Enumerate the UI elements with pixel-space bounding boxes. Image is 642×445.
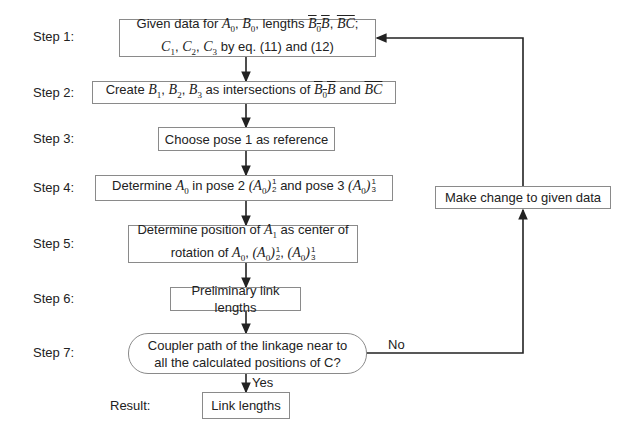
result-label: Result: [110,398,150,413]
step-4-box: Determine A0 in pose 2 (A0)12 and pose 3… [95,175,393,201]
step-5-box: Determine position of A1 as center of ro… [128,225,358,263]
result-text: Link lengths [211,397,280,414]
step-3-label: Step 3: [33,131,74,146]
step-1-line-1: Given data for A0, B0, lengths B0B, BC; [137,15,359,38]
step-5-label: Step 5: [33,236,74,251]
step-6-label: Step 6: [33,291,74,306]
step-7-line-2: all the calculated positions of C? [154,354,340,371]
step-7-line-1: Coupler path of the linkage near to [148,337,347,354]
yes-edge-label: Yes [252,375,273,390]
step-2-text: Create B1, B2, B3 as intersections of B0… [106,81,383,104]
step-3-text: Choose pose 1 as reference [165,131,328,148]
step-4-label: Step 4: [33,180,74,195]
step-1-box: Given data for A0, B0, lengths B0B, BC; … [119,19,376,57]
result-box: Link lengths [202,392,290,419]
step-1-label: Step 1: [33,29,74,44]
step-2-box: Create B1, B2, B3 as intersections of B0… [92,81,396,104]
step-1-line-2: C1, C2, C3 by eq. (11) and (12) [161,38,334,61]
step-5-line-2: rotation of A0, (A0)12, (A0)13 [171,244,316,267]
step-7-label: Step 7: [33,345,74,360]
step-4-text: Determine A0 in pose 2 (A0)12 and pose 3… [112,177,376,200]
step-6-text: Preliminary link lengths [171,282,300,316]
step-6-box: Preliminary link lengths [170,287,301,311]
step-5-line-1: Determine position of A1 as center of [137,221,348,244]
step-2-label: Step 2: [33,85,74,100]
no-edge-label: No [388,337,405,352]
step-7-decision: Coupler path of the linkage near to all … [128,333,367,374]
make-change-text: Make change to given data [445,189,601,206]
step-3-box: Choose pose 1 as reference [158,127,335,151]
make-change-box: Make change to given data [435,186,611,209]
